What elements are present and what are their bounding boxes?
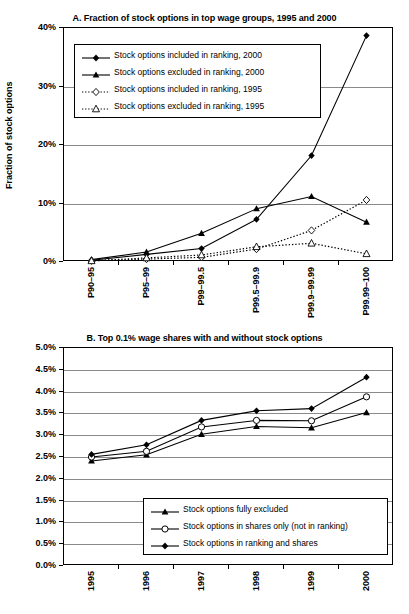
legend-item-label: Stock options fully excluded — [180, 505, 288, 514]
chart-a-plot-area: Stock options included in ranking, 2000S… — [63, 27, 393, 261]
series-line — [92, 196, 367, 259]
y-axis-tick-label: 4.0% — [35, 386, 56, 396]
data-point-filled-diamond — [308, 405, 314, 412]
y-axis-tick-label: 2.0% — [35, 473, 56, 483]
data-point-open-circle — [253, 417, 259, 423]
x-axis-tick-label: P99.5–99.9 — [251, 267, 261, 313]
x-axis-tick-label: 2000 — [361, 571, 371, 591]
x-axis-tick-label: P90–95 — [86, 267, 96, 298]
y-axis-tick-mark — [59, 412, 63, 413]
y-axis-tick-mark — [59, 478, 63, 479]
legend-item-label: Stock options excluded in ranking, 1995 — [111, 102, 264, 111]
y-axis-tick-mark — [59, 434, 63, 435]
x-axis-tick-label: 1998 — [251, 571, 261, 591]
x-axis-tick-mark — [118, 565, 119, 569]
legend-marker-icon — [81, 101, 111, 113]
data-point-open-diamond — [93, 88, 100, 95]
legend-item[interactable]: Stock options excluded in ranking, 1995 — [75, 98, 320, 115]
y-axis-tick-mark — [59, 369, 63, 370]
y-axis-tick-label: 3.5% — [35, 407, 56, 417]
chart-b-title: B. Top 0.1% wage shares with and without… — [0, 333, 409, 343]
y-axis-tick-mark — [59, 203, 63, 204]
data-point-open-circle — [198, 424, 204, 430]
y-axis-tick-label: 0.5% — [35, 538, 56, 548]
y-axis-tick-label: 2.5% — [35, 451, 56, 461]
y-axis-tick-mark — [59, 27, 63, 28]
y-axis-tick-label: 1.0% — [35, 516, 56, 526]
data-point-filled-triangle — [363, 219, 370, 225]
legend-item-label: Stock options in shares only (not in ran… — [180, 522, 348, 531]
y-axis-tick-mark — [59, 456, 63, 457]
y-axis-tick-label: 10% — [38, 198, 56, 208]
x-axis-tick-label: P99–99.5 — [196, 267, 206, 306]
y-axis-tick-mark — [59, 521, 63, 522]
y-axis-tick-label: 5.0% — [35, 342, 56, 352]
y-axis-tick-label: 0.0% — [35, 560, 56, 570]
chart-a-title: A. Fraction of stock options in top wage… — [0, 13, 409, 23]
data-point-open-triangle — [253, 243, 260, 250]
y-axis-tick-label: 4.5% — [35, 364, 56, 374]
x-axis-tick-label: 1999 — [306, 571, 316, 591]
x-axis-tick-mark — [118, 261, 119, 265]
y-axis-tick-label: 40% — [38, 22, 56, 32]
x-axis-tick-label: P95–99 — [141, 267, 151, 298]
legend-item-label: Stock options excluded in ranking, 2000 — [111, 68, 264, 77]
data-point-open-circle — [363, 394, 369, 400]
x-axis-tick-label: 1995 — [86, 571, 96, 591]
data-point-filled-diamond — [363, 374, 369, 381]
legend-item[interactable]: Stock options fully excluded — [144, 501, 387, 518]
x-axis-tick-mark — [283, 565, 284, 569]
x-axis-tick-label: P99.99–100 — [361, 267, 371, 316]
x-axis-tick-mark — [173, 261, 174, 265]
chart-legend: Stock options included in ranking, 2000S… — [74, 44, 321, 118]
series-line — [92, 377, 367, 454]
data-point-filled-diamond — [363, 32, 369, 39]
y-axis-tick-mark — [59, 261, 63, 262]
data-point-filled-diamond — [162, 542, 168, 549]
y-axis-tick-mark — [59, 543, 63, 544]
chart-panel-a: A. Fraction of stock options in top wage… — [0, 0, 409, 310]
chart-legend: Stock options fully excludedStock option… — [143, 498, 388, 555]
legend-item[interactable]: Stock options in shares only (not in ran… — [144, 518, 387, 535]
y-axis-tick-mark — [59, 500, 63, 501]
data-point-open-triangle — [308, 239, 315, 246]
y-axis-tick-label: 3.0% — [35, 429, 56, 439]
x-axis-tick-label: 1997 — [196, 571, 206, 591]
series-line — [92, 200, 367, 261]
chart-b-plot-area: Stock options fully excludedStock option… — [63, 347, 393, 565]
data-point-open-circle — [308, 418, 314, 424]
data-point-open-diamond — [363, 196, 370, 203]
legend-marker-icon — [150, 538, 180, 550]
legend-marker-icon — [81, 67, 111, 79]
data-point-open-diamond — [308, 227, 315, 234]
series-line — [92, 413, 367, 461]
legend-marker-icon — [150, 521, 180, 533]
x-axis-tick-mark — [228, 261, 229, 265]
x-axis-tick-mark — [338, 261, 339, 265]
chart-a-y-axis-label: Fraction of stock options — [4, 60, 14, 210]
y-axis-tick-label: 20% — [38, 139, 56, 149]
y-axis-tick-mark — [59, 86, 63, 87]
series-line — [92, 243, 367, 261]
x-axis-tick-mark — [173, 565, 174, 569]
y-axis-tick-mark — [59, 391, 63, 392]
legend-item[interactable]: Stock options included in ranking, 1995 — [75, 81, 320, 98]
legend-marker-icon — [81, 50, 111, 62]
data-point-filled-diamond — [198, 417, 204, 424]
legend-item[interactable]: Stock options excluded in ranking, 2000 — [75, 64, 320, 81]
legend-item-label: Stock options included in ranking, 1995 — [111, 85, 262, 94]
y-axis-tick-mark — [59, 144, 63, 145]
data-point-open-circle — [162, 525, 168, 531]
data-point-open-circle — [143, 448, 149, 454]
data-point-filled-triangle — [363, 409, 370, 415]
legend-item[interactable]: Stock options included in ranking, 2000 — [75, 47, 320, 64]
y-axis-tick-mark — [59, 347, 63, 348]
x-axis-tick-mark — [228, 565, 229, 569]
y-axis-tick-label: 0% — [43, 256, 56, 266]
y-axis-tick-label: 1.5% — [35, 495, 56, 505]
legend-marker-icon — [81, 84, 111, 96]
chart-panel-b: B. Top 0.1% wage shares with and without… — [0, 310, 409, 614]
legend-item[interactable]: Stock options in ranking and shares — [144, 535, 387, 552]
data-point-filled-diamond — [93, 54, 99, 61]
x-axis-tick-label: 1996 — [141, 571, 151, 591]
